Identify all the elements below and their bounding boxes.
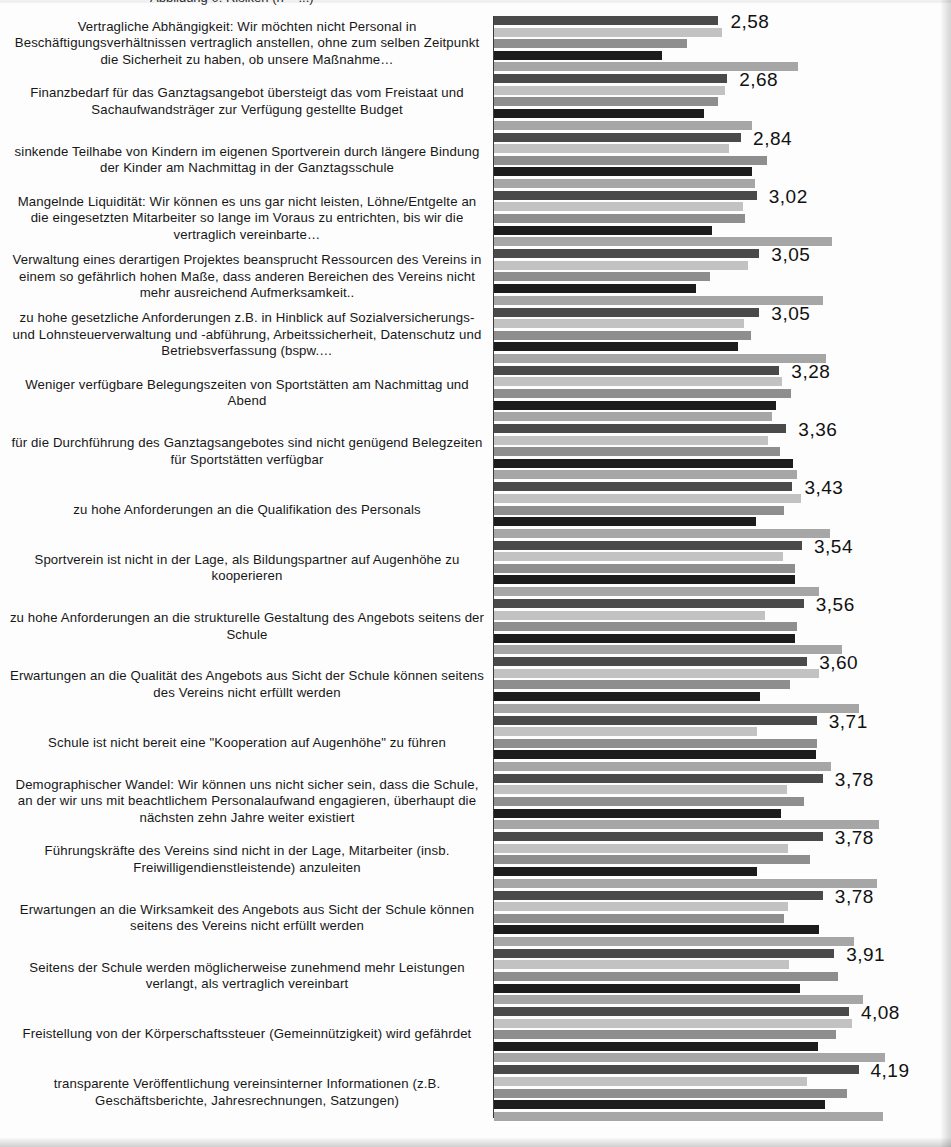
bar-series-1 xyxy=(494,599,804,608)
bar-stack xyxy=(494,657,951,712)
bar-stack xyxy=(494,832,951,887)
bar-value-label: 3,60 xyxy=(819,653,858,672)
bar-stack xyxy=(494,541,951,596)
bar-series-4 xyxy=(494,401,776,410)
bar-series-1 xyxy=(494,424,786,433)
category-label: Schule ist nicht bereit eine "Kooperatio… xyxy=(8,735,486,752)
category-label: Führungskräfte des Vereins sind nicht in… xyxy=(8,843,486,876)
bar-series-4 xyxy=(494,925,819,934)
bar-series-2 xyxy=(494,727,757,736)
bar-series-5 xyxy=(494,645,842,654)
bar-series-5 xyxy=(494,1112,883,1121)
bar-series-2 xyxy=(494,494,801,503)
horizontal-bar-chart: Vertragliche Abhängigkeit: Wir möchten n… xyxy=(0,12,951,1136)
bar-series-3 xyxy=(494,97,718,106)
category-label: Freistellung von der Körperschaftssteuer… xyxy=(8,1026,486,1043)
bar-series-5 xyxy=(494,121,752,130)
bar-series-2 xyxy=(494,319,744,328)
bar-stack xyxy=(494,133,951,188)
bar-series-5 xyxy=(494,529,830,538)
bar-stack xyxy=(494,249,951,304)
bar-series-4 xyxy=(494,1042,818,1051)
bar-series-1 xyxy=(494,716,817,725)
bar-series-3 xyxy=(494,156,767,165)
bar-series-1 xyxy=(494,774,823,783)
category-label: Vertragliche Abhängigkeit: Wir möchten n… xyxy=(8,19,486,69)
bar-series-5 xyxy=(494,820,879,829)
bar-series-1 xyxy=(494,308,759,317)
category-label: Mangelnde Liquidität: Wir können es uns … xyxy=(8,194,486,244)
bar-series-2 xyxy=(494,144,729,153)
bar-series-5 xyxy=(494,587,819,596)
category-label: Seitens der Schule werden möglicherweise… xyxy=(8,960,486,993)
bar-value-label: 2,84 xyxy=(753,129,792,148)
bar-series-4 xyxy=(494,984,800,993)
bar-series-1 xyxy=(494,832,823,841)
bar-value-label: 3,05 xyxy=(771,245,810,264)
bar-series-3 xyxy=(494,39,687,48)
category-label: für die Durchführung des Ganztagsangebot… xyxy=(8,435,486,468)
bar-series-5 xyxy=(494,354,826,363)
bar-series-1 xyxy=(494,366,779,375)
bar-series-5 xyxy=(494,1053,885,1062)
bar-value-label: 3,05 xyxy=(771,304,810,323)
bar-series-3 xyxy=(494,1089,847,1098)
bar-series-4 xyxy=(494,226,712,235)
bar-series-3 xyxy=(494,855,810,864)
bar-series-1 xyxy=(494,74,727,83)
bar-series-2 xyxy=(494,1019,852,1028)
bar-stack xyxy=(494,891,951,946)
bar-series-5 xyxy=(494,179,755,188)
bar-series-2 xyxy=(494,202,743,211)
bar-series-2 xyxy=(494,669,819,678)
bar-series-1 xyxy=(494,541,802,550)
bar-series-4 xyxy=(494,809,781,818)
bar-series-1 xyxy=(494,949,834,958)
bar-series-3 xyxy=(494,680,790,689)
bar-series-1 xyxy=(494,133,741,142)
bar-series-1 xyxy=(494,891,823,900)
bar-stack xyxy=(494,424,951,479)
bar-series-3 xyxy=(494,331,751,340)
bar-value-label: 3,78 xyxy=(835,828,874,847)
bar-series-5 xyxy=(494,470,797,479)
bar-series-3 xyxy=(494,739,817,748)
category-label: Verwaltung eines derartigen Projektes be… xyxy=(8,252,486,302)
bar-series-1 xyxy=(494,482,792,491)
figure-caption-text: Abbildung 0: Risiken (n = ...) xyxy=(150,0,570,4)
bar-stack xyxy=(494,16,951,71)
bar-series-5 xyxy=(494,762,831,771)
bar-series-3 xyxy=(494,1030,836,1039)
bar-series-2 xyxy=(494,261,748,270)
bar-series-2 xyxy=(494,436,768,445)
bar-value-label: 3,28 xyxy=(791,362,830,381)
bar-series-4 xyxy=(494,342,738,351)
bar-series-2 xyxy=(494,28,722,37)
bar-series-3 xyxy=(494,506,784,515)
bar-series-2 xyxy=(494,611,765,620)
bar-series-3 xyxy=(494,389,791,398)
bar-stack xyxy=(494,366,951,421)
bar-stack xyxy=(494,482,951,537)
bar-series-3 xyxy=(494,272,710,281)
bar-series-5 xyxy=(494,995,863,1004)
figure-caption-fragment: Abbildung 0: Risiken (n = ...) xyxy=(150,0,570,9)
bar-series-5 xyxy=(494,412,772,421)
bar-series-4 xyxy=(494,459,793,468)
bar-value-label: 3,54 xyxy=(814,537,853,556)
bar-stack xyxy=(494,716,951,771)
bar-value-label: 3,56 xyxy=(816,595,855,614)
bar-series-1 xyxy=(494,16,718,25)
category-label: Erwartungen an die Wirksamkeit des Angeb… xyxy=(8,902,486,935)
bar-value-label: 3,43 xyxy=(804,478,843,497)
category-label: transparente Veröffentlichung vereinsint… xyxy=(8,1076,486,1109)
bar-series-3 xyxy=(494,447,780,456)
bar-stack xyxy=(494,599,951,654)
bar-value-label: 3,02 xyxy=(769,187,808,206)
bar-series-4 xyxy=(494,109,704,118)
bar-value-label: 3,91 xyxy=(846,945,885,964)
category-label: zu hohe Anforderungen an die Qualifikati… xyxy=(8,502,486,519)
bar-series-1 xyxy=(494,191,757,200)
category-label: Sportverein ist nicht in der Lage, als B… xyxy=(8,552,486,585)
page-edge-bottom-shadow xyxy=(0,1138,951,1147)
